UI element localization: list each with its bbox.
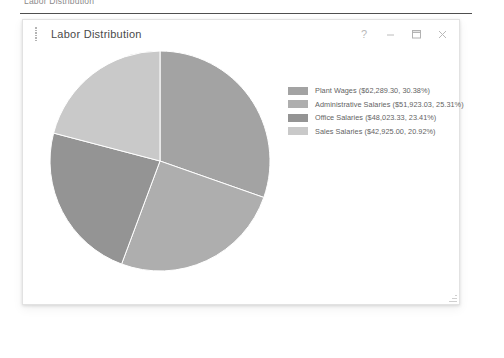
maximize-button[interactable]	[403, 23, 429, 45]
legend-item[interactable]: Plant Wages ($62,289.30, 30.38%)	[288, 84, 456, 98]
close-icon	[437, 29, 448, 40]
pie-slice-group	[50, 51, 270, 271]
drag-dots-icon[interactable]	[31, 26, 41, 42]
legend-item-label: Sales Salaries ($42,925.00, 20.92%)	[315, 128, 436, 135]
legend-item[interactable]: Sales Salaries ($42,925.00, 20.92%)	[288, 125, 456, 139]
resize-grip-icon[interactable]	[447, 293, 457, 303]
legend-color-swatch	[288, 127, 308, 135]
window-title: Labor Distribution	[51, 28, 142, 40]
legend-item-label: Office Salaries ($48,023.33, 23.41%)	[315, 114, 436, 121]
legend-color-swatch	[288, 87, 308, 95]
chart-legend: Plant Wages ($62,289.30, 30.38%)Administ…	[288, 84, 456, 138]
window-body: Plant Wages ($62,289.30, 30.38%)Administ…	[23, 48, 459, 305]
maximize-icon	[411, 29, 422, 40]
page-title: Labor Distribution	[24, 0, 94, 7]
question-mark-icon: ?	[361, 29, 367, 40]
legend-item-label: Administrative Salaries ($51,923.03, 25.…	[315, 101, 464, 108]
legend-color-swatch	[288, 114, 308, 122]
pie-chart-svg	[49, 50, 271, 272]
legend-color-swatch	[288, 100, 308, 108]
legend-item[interactable]: Office Salaries ($48,023.33, 23.41%)	[288, 111, 456, 125]
pie-chart[interactable]	[49, 50, 271, 272]
legend-item-label: Plant Wages ($62,289.30, 30.38%)	[315, 87, 430, 94]
minimize-button[interactable]	[377, 23, 403, 45]
chart-window: Labor Distribution ?	[22, 19, 460, 305]
window-title-bar[interactable]: Labor Distribution ?	[23, 20, 459, 48]
header-divider	[20, 13, 472, 14]
minimize-icon	[385, 29, 396, 40]
help-button[interactable]: ?	[351, 23, 377, 45]
close-button[interactable]	[429, 23, 455, 45]
legend-item[interactable]: Administrative Salaries ($51,923.03, 25.…	[288, 98, 456, 112]
